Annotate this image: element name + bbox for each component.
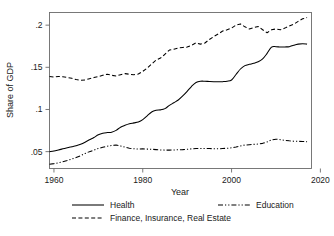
x-tick-label: 2020 [311, 175, 330, 185]
chart-container: .05.1.15.2 1960198020002020 Share of GDP… [0, 0, 334, 236]
x-tick-label: 1980 [133, 175, 152, 185]
x-axis-title: Year [171, 187, 189, 197]
x-tick-label: 2000 [222, 175, 241, 185]
series-line-health [50, 44, 308, 152]
legend-label-education: Education [256, 200, 294, 210]
y-axis-title: Share of GDP [5, 62, 15, 118]
y-tick-label: .1 [35, 104, 42, 114]
y-tick-label: .05 [31, 147, 43, 157]
y-tick-label: .15 [31, 62, 43, 72]
chart-legend: HealthEducationFinance, Insurance, Real … [72, 200, 294, 223]
data-series-group [50, 18, 308, 165]
plot-frame [50, 13, 312, 169]
legend-label-health: Health [110, 200, 135, 210]
x-tick-label: 1960 [44, 175, 63, 185]
x-axis: 1960198020002020 [44, 169, 330, 185]
legend-label-finance-insurance-real-estate: Finance, Insurance, Real Estate [110, 213, 231, 223]
y-axis: .05.1.15.2 [31, 20, 50, 156]
y-tick-label: .2 [35, 20, 42, 30]
share-of-gdp-line-chart: .05.1.15.2 1960198020002020 Share of GDP… [0, 0, 334, 236]
series-line-education [50, 139, 308, 164]
series-line-finance-insurance-real-estate [50, 18, 308, 81]
